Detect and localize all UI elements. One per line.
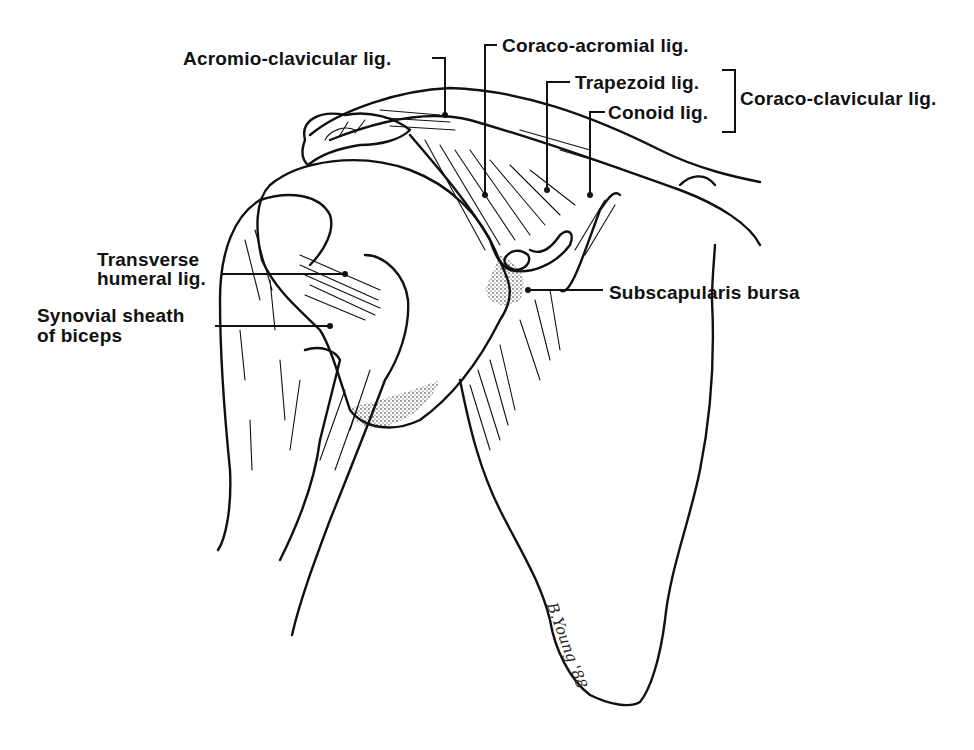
transverse-humeral-ligament	[300, 255, 380, 320]
label-transverse-humeral-ligament-line2: humeral lig.	[97, 268, 206, 289]
label-synovial-sheath-line1: Synovial sheath	[37, 305, 185, 326]
acromion	[302, 113, 410, 165]
shoulder-illustration	[0, 0, 974, 750]
label-coraco-acromial-ligament: Coraco-acromial lig.	[502, 35, 689, 56]
anatomy-figure: Acromio-clavicular lig. Coraco-acromial …	[0, 0, 974, 750]
label-coraco-clavicular-ligament: Coraco-clavicular lig.	[740, 88, 937, 109]
label-conoid-ligament: Conoid lig.	[608, 102, 708, 123]
label-trapezoid-ligament: Trapezoid lig.	[575, 72, 699, 93]
label-synovial-sheath-line2: of biceps	[37, 325, 122, 346]
label-acromio-clavicular-ligament: Acromio-clavicular lig.	[183, 48, 391, 69]
coracoid-process	[410, 135, 575, 271]
label-subscapularis-bursa: Subscapularis bursa	[609, 282, 800, 303]
label-transverse-humeral-ligament-line1: Transverse	[97, 249, 199, 270]
